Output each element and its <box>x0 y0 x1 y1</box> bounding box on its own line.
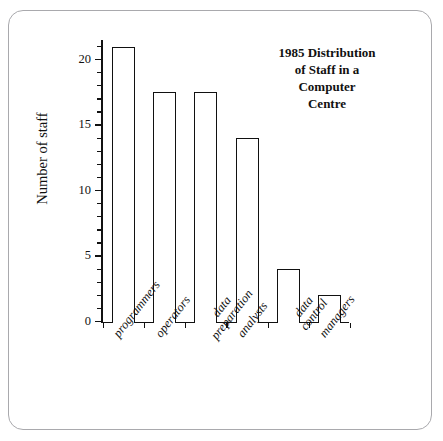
y-axis-minor-tick <box>97 308 101 309</box>
chart-title-line: 1985 Distribution <box>243 44 411 61</box>
y-axis-title: Number of staff <box>34 89 51 229</box>
y-axis-minor-tick <box>97 203 101 204</box>
y-axis-major-tick <box>95 59 101 60</box>
y-axis-major-tick <box>95 321 101 322</box>
y-axis-tick-label-wrap: 15 <box>60 118 91 130</box>
figure-page: Number of staff 05101520 programmersoper… <box>0 0 443 441</box>
y-axis-minor-tick <box>97 85 101 86</box>
y-axis-line <box>101 40 103 323</box>
y-axis-minor-tick <box>97 164 101 165</box>
y-axis-minor-tick <box>97 242 101 243</box>
y-axis-minor-tick <box>97 282 101 283</box>
x-axis-tick <box>185 323 186 328</box>
y-axis-minor-tick <box>97 98 101 99</box>
y-axis-minor-tick <box>97 111 101 112</box>
y-axis-minor-tick <box>97 269 101 270</box>
y-axis-tick-label: 5 <box>60 249 91 262</box>
y-axis-tick-label-wrap: 20 <box>60 53 91 65</box>
y-axis-minor-tick <box>97 138 101 139</box>
bar-chart: Number of staff 05101520 programmersoper… <box>0 0 443 441</box>
y-axis-minor-tick <box>97 46 101 47</box>
bar <box>194 92 217 322</box>
y-axis-major-tick <box>95 190 101 191</box>
chart-title: 1985 Distribution of Staff in a Computer… <box>243 44 411 113</box>
y-axis-major-tick <box>95 124 101 125</box>
chart-title-line: Computer <box>243 78 411 95</box>
x-axis-tick <box>268 323 269 328</box>
y-axis-minor-tick <box>97 151 101 152</box>
chart-title-line: Centre <box>243 95 411 112</box>
chart-title-line: of Staff in a <box>243 61 411 78</box>
y-axis-tick-label: 20 <box>60 53 91 66</box>
y-axis-tick-label: 0 <box>60 315 91 328</box>
y-axis-minor-tick <box>97 177 101 178</box>
y-axis-minor-tick <box>97 229 101 230</box>
y-axis-tick-label: 15 <box>60 118 91 131</box>
bar <box>112 47 135 323</box>
x-axis-tick <box>103 323 104 328</box>
y-axis-minor-tick <box>97 72 101 73</box>
y-axis-tick-label-wrap: 10 <box>60 184 91 196</box>
y-axis-minor-tick <box>97 216 101 217</box>
x-axis-tick <box>144 323 145 328</box>
y-axis-minor-tick <box>97 295 101 296</box>
y-axis-tick-label-wrap: 5 <box>60 249 91 261</box>
y-axis-tick-label: 10 <box>60 184 91 197</box>
y-axis-tick-label-wrap: 0 <box>60 315 91 327</box>
x-axis-tick <box>350 323 351 328</box>
y-axis-major-tick <box>95 255 101 256</box>
